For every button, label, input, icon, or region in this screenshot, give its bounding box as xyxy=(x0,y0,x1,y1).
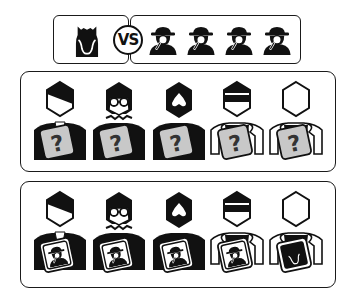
detective-role-card[interactable] xyxy=(158,237,194,273)
question-card[interactable] xyxy=(276,124,312,160)
detective-role-card[interactable] xyxy=(39,237,75,273)
detective-role-card[interactable] xyxy=(98,237,134,273)
monster-role-card[interactable] xyxy=(276,237,312,273)
question-card[interactable] xyxy=(98,124,134,160)
question-card[interactable] xyxy=(39,124,75,160)
question-card[interactable] xyxy=(158,124,194,160)
character-layer: ? xyxy=(0,0,352,296)
detective-role-card[interactable] xyxy=(217,237,253,273)
question-card[interactable] xyxy=(217,124,253,160)
